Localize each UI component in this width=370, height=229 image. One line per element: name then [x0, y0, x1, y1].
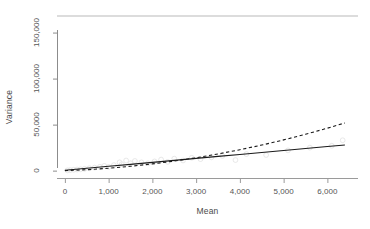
x-axis-tick-label: 0 — [63, 187, 67, 196]
dashed-fit-line — [65, 123, 345, 171]
scatter-points-layer — [65, 138, 345, 173]
scatter-point — [124, 158, 129, 163]
variance-vs-mean-chart: Variance Mean 050,000100,000150,000 01,0… — [0, 0, 370, 229]
y-axis-tick-label-text: 100,000 — [32, 64, 41, 93]
plot-area — [0, 0, 370, 229]
x-axis-tick-label: 6,000 — [317, 187, 337, 196]
y-axis-ticks — [53, 33, 57, 171]
y-axis-tick-label: 150,000 — [22, 27, 50, 39]
solid-fit-line — [65, 145, 345, 170]
y-axis-tick-label-text: 50,000 — [32, 112, 41, 136]
scatter-point — [132, 159, 137, 164]
scatter-point — [340, 138, 345, 143]
y-axis-tick-label: 0 — [22, 165, 50, 177]
y-axis-tick-label: 100,000 — [22, 73, 50, 85]
scatter-point — [233, 158, 238, 163]
x-axis-tick-label: 5,000 — [274, 187, 294, 196]
x-axis-tick-label: 3,000 — [186, 187, 206, 196]
y-axis-tick-label-text: 0 — [31, 168, 40, 172]
x-axis-tick-label: 1,000 — [99, 187, 119, 196]
x-axis-ticks — [65, 179, 328, 183]
y-axis-tick-label-text: 150,000 — [32, 18, 41, 47]
series-lines-layer — [65, 123, 345, 171]
y-axis-tick-label: 50,000 — [22, 119, 50, 131]
x-axis-tick-label: 2,000 — [142, 187, 162, 196]
scatter-point — [111, 163, 116, 168]
scatter-point — [264, 153, 269, 158]
x-axis-tick-label: 4,000 — [230, 187, 250, 196]
